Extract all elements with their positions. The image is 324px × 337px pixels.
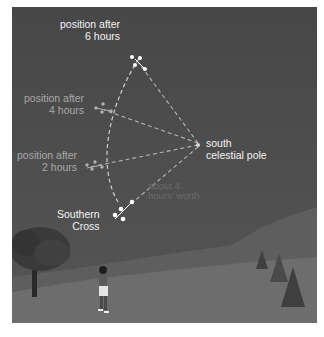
star-rotation-figure: position after 6 hours position after 4 …	[12, 7, 317, 323]
label-position-6h: position after 6 hours	[60, 18, 120, 42]
south-celestial-pole-marker	[196, 143, 200, 147]
label-line: celestial pole	[206, 149, 267, 161]
label-line: 4 hours	[24, 104, 84, 116]
label-southern-cross: Southern Cross	[57, 208, 100, 232]
label-line: position after	[17, 149, 77, 161]
label-angle: about 4 hours' worth	[148, 181, 199, 201]
label-line: 6 hours	[60, 30, 120, 42]
label-south-celestial-pole: south celestial pole	[206, 137, 267, 161]
label-position-4h: position after 4 hours	[24, 92, 84, 116]
label-line: 2 hours	[17, 161, 77, 173]
label-line: Cross	[57, 220, 100, 232]
label-line: position after	[24, 92, 84, 104]
label-line: position after	[60, 18, 120, 30]
label-line: hours' worth	[148, 191, 199, 201]
label-position-2h: position after 2 hours	[17, 149, 77, 173]
label-line: Southern	[57, 208, 100, 220]
label-line: south	[206, 137, 267, 149]
